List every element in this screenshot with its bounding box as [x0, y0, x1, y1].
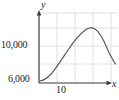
y-tick-label-10000: 10,000 [1, 40, 27, 50]
axis-lines-group [37, 10, 112, 85]
x-tick-label-10: 10 [56, 85, 66, 95]
data-curve-group [40, 28, 116, 81]
data-curve [40, 28, 116, 81]
y-tick-label-6000: 6,000 [8, 74, 30, 84]
x-axis-label: x [112, 79, 116, 89]
gridlines-group [39, 12, 118, 83]
y-axis-label: y [41, 0, 45, 10]
graph-figure: 10,000 6,000 10 y x [0, 0, 119, 100]
